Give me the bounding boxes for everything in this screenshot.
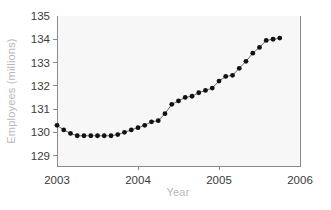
data-point-marker [109,133,114,138]
data-point-marker [203,88,208,93]
x-tick-label: 2006 [287,174,313,186]
data-point-marker [163,111,168,116]
data-point-marker [95,133,100,138]
data-point-marker [102,133,107,138]
data-point-marker [61,128,66,133]
data-point-marker [183,95,188,100]
y-tick-label: 130 [31,126,50,138]
y-axis-tick-marks [53,39,57,155]
y-tick-label: 129 [31,150,50,162]
data-point-marker [115,132,120,137]
y-tick-label: 134 [31,33,51,45]
data-point-marker [156,118,161,123]
x-axis-tick-labels: 2003200420052006 [44,174,313,186]
data-point-marker [75,133,80,138]
data-point-marker [196,90,201,95]
x-tick-label: 2004 [125,174,151,186]
x-tick-label: 2003 [44,174,70,186]
y-tick-label: 131 [31,103,50,115]
x-axis-label: Year [166,186,189,198]
x-axis-tick-marks [138,166,219,170]
data-point-marker [230,73,235,78]
data-point-marker [190,94,195,99]
plot-background [57,16,300,166]
data-point-marker [149,119,154,124]
y-tick-label: 135 [31,10,50,22]
data-point-marker [88,133,93,138]
data-point-marker [82,133,87,138]
chart-figure: 129130131132133134135 2003200420052006 E… [0,0,331,210]
data-point-marker [223,74,228,79]
y-axis-tick-labels: 129130131132133134135 [31,10,51,162]
y-tick-label: 132 [31,80,50,92]
data-point-marker [264,38,269,43]
x-tick-label: 2005 [206,174,232,186]
data-point-marker [244,59,249,64]
data-point-marker [250,51,255,56]
data-point-marker [210,86,215,91]
data-point-marker [136,125,141,130]
data-point-marker [68,131,73,136]
y-tick-label: 133 [31,57,50,69]
data-point-marker [237,66,242,71]
employment-line-chart: 129130131132133134135 2003200420052006 E… [0,0,331,210]
data-point-marker [129,128,134,133]
data-point-marker [122,130,127,135]
data-point-marker [217,79,222,84]
data-point-marker [55,123,60,128]
data-point-marker [271,37,276,42]
y-axis-label: Employees (millions) [5,38,17,143]
data-point-marker [169,102,174,107]
data-point-marker [257,45,262,50]
data-point-marker [277,36,282,41]
data-point-marker [142,123,147,128]
data-point-marker [176,98,181,103]
